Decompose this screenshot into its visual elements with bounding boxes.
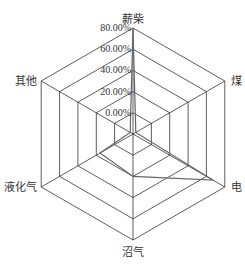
- category-label: 沼气: [122, 245, 144, 259]
- category-label: 电: [231, 181, 242, 194]
- tick-label: 60.00%: [100, 43, 131, 54]
- axis-spoke: [41, 134, 133, 187]
- category-label: 其他: [15, 75, 37, 88]
- axis-tick-labels: 0.00%20.00%40.00%60.00%80.00%: [100, 22, 131, 118]
- radar-spokes: [41, 28, 225, 240]
- category-label: 煤: [231, 75, 242, 88]
- axis-spoke: [133, 81, 225, 134]
- tick-label: 20.00%: [100, 86, 131, 97]
- tick-label: 40.00%: [100, 64, 131, 75]
- tick-label: 0.00%: [105, 107, 131, 118]
- category-label: 液化气: [4, 180, 37, 194]
- category-label: 薪柴: [122, 12, 144, 26]
- radar-chart: 0.00%20.00%40.00%60.00%80.00% 薪柴煤电沼气液化气其…: [0, 0, 245, 265]
